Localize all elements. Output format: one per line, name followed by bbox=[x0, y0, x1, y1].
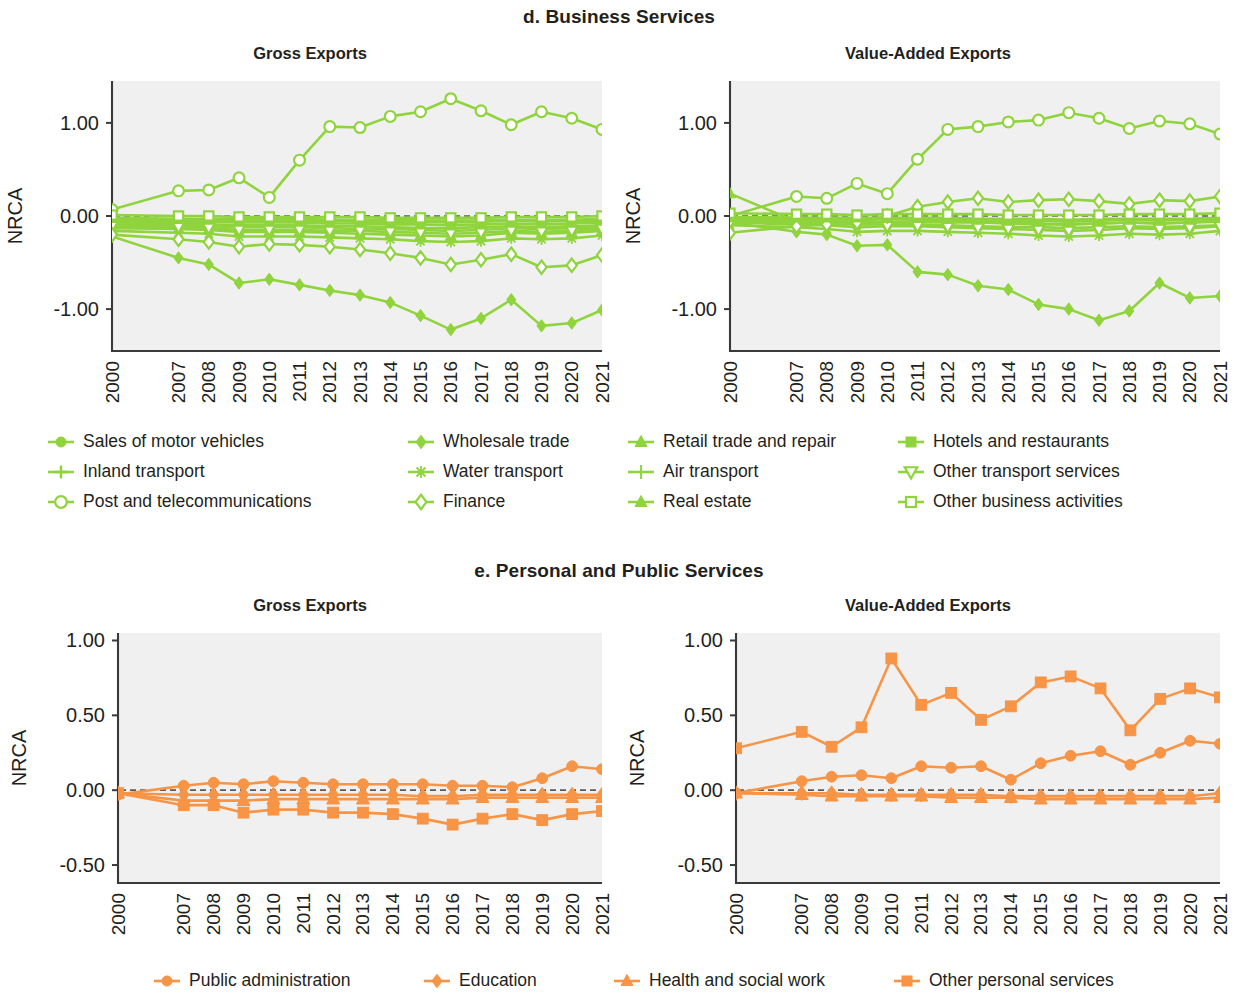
x-tick-label: 2021 bbox=[1210, 893, 1231, 935]
series-marker bbox=[976, 714, 987, 725]
x-tick-label: 2008 bbox=[816, 361, 837, 403]
y-axis-title: NRCA bbox=[626, 729, 648, 786]
series-marker bbox=[912, 154, 923, 165]
x-tick-label: 2020 bbox=[562, 893, 583, 935]
legend-label: Other transport services bbox=[933, 463, 1120, 481]
x-tick-label: 2016 bbox=[440, 361, 461, 403]
y-tick-label: 0.00 bbox=[60, 205, 99, 227]
series-marker bbox=[446, 213, 455, 222]
x-tick-label: 2014 bbox=[380, 361, 401, 404]
x-tick-label: 2008 bbox=[203, 893, 224, 935]
legend-label: Public administration bbox=[189, 972, 350, 990]
series-marker bbox=[537, 773, 548, 784]
x-tick-label: 2014 bbox=[382, 893, 403, 936]
series-marker bbox=[856, 722, 867, 733]
series-marker bbox=[942, 124, 953, 135]
legend-item[interactable]: Health and social work bbox=[612, 972, 892, 990]
legend-label: Health and social work bbox=[649, 972, 825, 990]
x-tick-label: 2009 bbox=[847, 361, 868, 403]
legend-label: Wholesale trade bbox=[443, 433, 569, 451]
legend-item[interactable]: Other transport services bbox=[896, 463, 1186, 481]
x-tick-label: 2018 bbox=[502, 893, 523, 935]
x-tick-label: 2017 bbox=[1089, 361, 1110, 403]
series-marker bbox=[852, 178, 863, 189]
legend-label: Post and telecommunications bbox=[83, 493, 312, 511]
legend-item[interactable]: Education bbox=[422, 972, 612, 990]
square-filled-icon bbox=[896, 433, 926, 451]
x-tick-label: 2019 bbox=[532, 893, 553, 935]
legend-label: Air transport bbox=[663, 463, 758, 481]
x-tick-label: 2018 bbox=[1120, 893, 1141, 935]
x-tick-label: 2012 bbox=[323, 893, 344, 935]
x-tick-label: 2007 bbox=[168, 361, 189, 403]
plot-business-gross: 1.000.00-1.00200020072008200920102011201… bbox=[0, 67, 620, 447]
y-tick-label: -0.50 bbox=[59, 854, 105, 876]
series-marker bbox=[792, 210, 801, 219]
series-marker bbox=[826, 771, 837, 782]
star-icon bbox=[406, 463, 436, 481]
x-tick-label: 2016 bbox=[442, 893, 463, 935]
x-tick-label: 2015 bbox=[410, 361, 431, 403]
x-tick-label: 2013 bbox=[970, 893, 991, 935]
legend-item[interactable]: Water transport bbox=[406, 463, 626, 481]
series-marker bbox=[946, 762, 957, 773]
series-marker bbox=[1185, 210, 1194, 219]
y-tick-label: 0.00 bbox=[66, 779, 105, 801]
series-marker bbox=[298, 804, 309, 815]
series-marker bbox=[1215, 129, 1226, 140]
circle-open-icon bbox=[46, 493, 76, 511]
series-marker bbox=[821, 193, 832, 204]
legend-item[interactable]: Retail trade and repair bbox=[626, 433, 896, 451]
legend-item[interactable]: Finance bbox=[406, 493, 626, 511]
series-marker bbox=[298, 777, 309, 788]
series-marker bbox=[1095, 746, 1106, 757]
legend-item[interactable]: Hotels and restaurants bbox=[896, 433, 1186, 451]
x-tick-label: 2018 bbox=[501, 361, 522, 403]
series-marker bbox=[507, 212, 516, 221]
series-marker bbox=[1064, 210, 1073, 219]
series-marker bbox=[882, 188, 893, 199]
x-tick-label: 2008 bbox=[198, 361, 219, 403]
series-marker bbox=[358, 807, 369, 818]
series-marker bbox=[1215, 209, 1224, 218]
series-marker bbox=[208, 800, 219, 811]
series-marker bbox=[386, 213, 395, 222]
y-tick-label: 0.00 bbox=[678, 205, 717, 227]
series-marker bbox=[597, 211, 606, 220]
legend-item[interactable]: Public administration bbox=[152, 972, 422, 990]
x-tick-label: 2011 bbox=[907, 361, 928, 402]
legend-item[interactable]: Sales of motor vehicles bbox=[46, 433, 406, 451]
series-marker bbox=[796, 776, 807, 787]
legend-item[interactable]: Other personal services bbox=[892, 972, 1152, 990]
series-marker bbox=[536, 106, 547, 117]
chart-personal-gross: Gross Exports 1.000.500.00-0.50200020072… bbox=[0, 596, 620, 979]
chart-business-value-added: Value-Added Exports 1.000.00-1.002000200… bbox=[618, 44, 1238, 447]
series-marker bbox=[1125, 210, 1134, 219]
circle-filled-icon bbox=[152, 972, 182, 990]
chart-title-value-added-exports-business: Value-Added Exports bbox=[618, 44, 1238, 63]
legend-item[interactable]: Post and telecommunications bbox=[46, 493, 406, 511]
chart-personal-value-added: Value-Added Exports 1.000.500.00-0.50200… bbox=[618, 596, 1238, 979]
x-tick-label: 2020 bbox=[1179, 361, 1200, 403]
legend-item[interactable]: Other business activities bbox=[896, 493, 1186, 511]
series-marker bbox=[973, 210, 982, 219]
series-marker bbox=[355, 212, 364, 221]
series-marker bbox=[537, 212, 546, 221]
y-tick-label: -0.50 bbox=[677, 854, 723, 876]
x-tick-label: 2021 bbox=[1210, 361, 1231, 403]
legend-label: Education bbox=[459, 972, 537, 990]
series-marker bbox=[417, 813, 428, 824]
series-marker bbox=[537, 815, 548, 826]
legend-item[interactable]: Real estate bbox=[626, 493, 896, 511]
legend-item[interactable]: Wholesale trade bbox=[406, 433, 626, 451]
series-marker bbox=[506, 119, 517, 130]
series-marker bbox=[325, 212, 334, 221]
series-marker bbox=[173, 185, 184, 196]
legend-item[interactable]: Air transport bbox=[626, 463, 896, 481]
series-marker bbox=[1155, 747, 1166, 758]
x-tick-label: 2015 bbox=[1030, 893, 1051, 935]
series-marker bbox=[1065, 671, 1076, 682]
legend-item[interactable]: Inland transport bbox=[46, 463, 406, 481]
y-axis-title: NRCA bbox=[8, 729, 30, 786]
series-marker bbox=[567, 212, 576, 221]
